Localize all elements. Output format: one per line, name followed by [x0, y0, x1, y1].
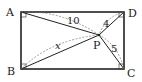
label-c: C [127, 67, 135, 80]
label-dp-length: 4 [103, 18, 109, 29]
label-cp-length: 5 [111, 43, 117, 54]
geometry-diagram: A B C D P 10 4 x 5 [0, 0, 142, 82]
label-b: B [7, 65, 15, 78]
label-d: D [128, 7, 137, 20]
label-bp-length: x [55, 40, 61, 51]
segment-ap [21, 12, 99, 35]
label-ap-length: 10 [67, 15, 80, 26]
label-a: A [5, 6, 15, 19]
point-p [98, 34, 101, 37]
label-p: P [93, 39, 101, 52]
